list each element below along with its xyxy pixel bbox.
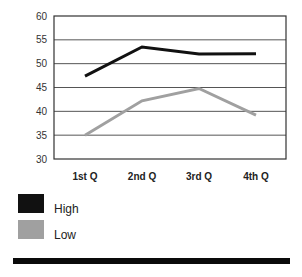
x-axis-labels: 1st Q2nd Q3rd Q4th Q [72,171,269,182]
legend-swatch-high [18,194,44,213]
series-line-high [85,47,256,76]
y-tick-label: 55 [36,34,48,45]
y-tick-label: 60 [36,11,48,22]
data-series [85,47,256,135]
x-tick-label: 4th Q [243,171,269,182]
y-tick-label: 30 [36,154,48,165]
y-axis-labels: 60555045403530 [36,11,48,165]
y-tick-label: 40 [36,106,48,117]
line-chart: 60555045403530 1st Q2nd Q3rd Q4th Q [0,0,302,190]
legend-label-low: Low [54,228,76,242]
bottom-divider-bar [13,258,290,264]
x-tick-label: 3rd Q [186,171,212,182]
legend-label-high: High [54,202,79,216]
legend-swatch-low [18,220,44,239]
y-tick-label: 35 [36,130,48,141]
y-tick-label: 45 [36,82,48,93]
series-line-low [85,89,256,136]
x-tick-label: 1st Q [72,171,97,182]
x-tick-label: 2nd Q [128,171,157,182]
y-tick-label: 50 [36,58,48,69]
